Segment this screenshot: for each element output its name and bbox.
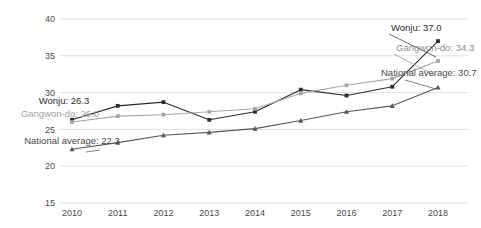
data-point-marker <box>116 104 120 108</box>
y-axis-tick-label: 20 <box>45 161 55 171</box>
y-axis-tick-label: 35 <box>45 51 55 61</box>
data-point-marker <box>299 91 303 95</box>
chart-canvas: 152025303540 201020112012201320142015201… <box>0 0 481 228</box>
y-axis-tick-label: 25 <box>45 125 55 135</box>
x-axis-tick-label: 2011 <box>108 208 127 218</box>
annotation-label-right-national: National average: 30.7 <box>381 67 477 78</box>
annotation-leader-line <box>405 80 436 89</box>
line-chart: 152025303540 201020112012201320142015201… <box>0 0 481 228</box>
annotation-label-left-gangwon: Gangwon-do: 26.0 <box>21 108 99 119</box>
x-axis-tick-label: 2010 <box>62 208 82 218</box>
series-line-national-average <box>72 87 438 149</box>
annotation-label-right-gangwon: Gangwon-do: 34.3 <box>396 42 474 53</box>
data-point-marker <box>435 85 440 90</box>
x-axis-tick-label: 2013 <box>199 208 219 218</box>
x-axis-tick-label: 2018 <box>428 208 448 218</box>
x-axis-tick-labels: 201020112012201320142015201620172018 <box>62 208 448 218</box>
x-axis-tick-label: 2014 <box>245 208 265 218</box>
x-axis-tick-label: 2012 <box>153 208 173 218</box>
data-point-marker <box>345 83 349 87</box>
data-point-marker <box>299 88 303 92</box>
y-axis-tick-label: 15 <box>45 198 55 208</box>
x-axis-tick-label: 2015 <box>291 208 311 218</box>
data-point-marker <box>116 114 120 118</box>
y-axis-tick-label: 40 <box>45 14 55 24</box>
annotation-labels: Wonju: 26.3Gangwon-do: 26.0National aver… <box>21 22 477 146</box>
data-point-marker <box>207 118 211 122</box>
data-point-marker <box>253 107 257 111</box>
data-point-marker <box>207 110 211 114</box>
annotation-label-right-wonju: Wonju: 37.0 <box>391 22 442 33</box>
x-axis-tick-label: 2017 <box>382 208 402 218</box>
data-point-marker <box>162 113 166 117</box>
annotation-label-left-national: National average: 22.3 <box>24 135 120 146</box>
annotation-label-left-wonju: Wonju: 26.3 <box>39 95 90 106</box>
data-point-marker <box>390 85 394 89</box>
data-point-marker <box>70 120 74 124</box>
x-axis-tick-label: 2016 <box>336 208 356 218</box>
data-point-marker <box>162 100 166 104</box>
data-point-marker <box>436 59 440 63</box>
data-point-marker <box>345 94 349 98</box>
annotation-leader-line <box>86 150 100 152</box>
